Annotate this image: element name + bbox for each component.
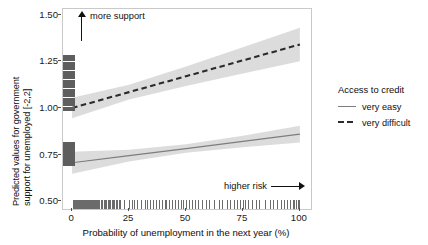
x-axis-tick-mark: [128, 208, 129, 211]
y-rug-tick: [63, 109, 75, 111]
annotation-higher-risk-label: higher risk: [224, 181, 267, 191]
legend-item-very-difficult[interactable]: very difficult: [338, 117, 428, 128]
x-axis-tick-label: 75: [222, 212, 262, 223]
y-axis-tick-label: 1.50: [28, 8, 58, 19]
legend-key-solid-line-icon: [338, 101, 356, 112]
y-axis-tick-label: 0.75: [28, 148, 58, 159]
y-axis-tick-mark: [58, 14, 61, 15]
annotation-more-support-label: more support: [90, 11, 145, 21]
up-arrow-icon: [77, 11, 86, 41]
y-rug-tick: [63, 164, 75, 166]
series-line: [72, 134, 300, 163]
y-axis-tick-mark: [58, 107, 61, 108]
y-axis-tick-mark: [58, 200, 61, 201]
x-axis-tick-labels: 0255075100: [62, 212, 310, 226]
legend-key-dashed-line-icon: [338, 117, 356, 128]
x-axis-tick-mark: [185, 208, 186, 211]
plot-panel: more support higher risk: [62, 8, 312, 210]
legend-item-very-easy[interactable]: very easy: [338, 101, 428, 112]
x-axis-tick-label: 25: [108, 212, 148, 223]
x-axis-tick-label: 100: [279, 212, 319, 223]
y-axis-tick-label: 1.00: [28, 102, 58, 113]
y-axis-tick-label: 0.50: [28, 195, 58, 206]
x-axis-tick-label: 50: [165, 212, 205, 223]
annotation-higher-risk: higher risk: [224, 181, 305, 191]
confidence-ribbon: [72, 28, 300, 119]
x-axis-tick-mark: [299, 208, 300, 211]
x-axis-tick-mark: [71, 208, 72, 211]
y-axis-tick-labels: 0.500.751.001.251.50: [28, 0, 58, 245]
chart-figure: Predicted values for government support …: [0, 0, 428, 245]
y-axis-title-line1: Predicted values for government: [11, 77, 22, 206]
legend-title: Access to credit: [338, 84, 428, 95]
y-axis-tick-mark: [58, 154, 61, 155]
x-axis-title: Probability of unemployment in the next …: [62, 227, 310, 238]
confidence-ribbon: [72, 126, 300, 174]
y-axis-tick-label: 1.25: [28, 55, 58, 66]
legend-item-very-difficult-label: very difficult: [362, 118, 410, 128]
x-axis-tick-mark: [242, 208, 243, 211]
legend-item-very-easy-label: very easy: [362, 102, 401, 112]
x-axis-tick-label: 0: [51, 212, 91, 223]
legend: Access to credit very easy very difficul…: [338, 84, 428, 133]
right-arrow-icon: [271, 182, 305, 191]
y-axis-tick-mark: [58, 60, 61, 61]
annotation-more-support: more support: [77, 11, 145, 41]
